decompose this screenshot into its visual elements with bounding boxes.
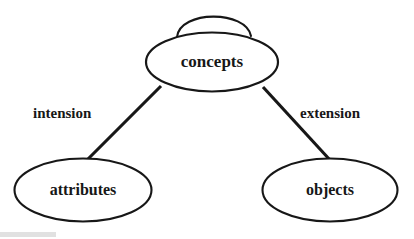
diagram-canvas: concepts attributes objects intension ex… xyxy=(0,0,414,239)
node-attributes-label: attributes xyxy=(50,181,117,198)
concept-diagram: concepts attributes objects intension ex… xyxy=(0,0,414,239)
edge-label-intension: intension xyxy=(33,105,92,121)
edge-intension xyxy=(86,86,161,161)
node-concepts-label: concepts xyxy=(181,52,244,71)
edge-label-extension: extension xyxy=(300,105,361,121)
edge-extension xyxy=(263,87,330,160)
node-objects-label: objects xyxy=(306,181,354,199)
scan-edge-artifact xyxy=(0,232,56,237)
